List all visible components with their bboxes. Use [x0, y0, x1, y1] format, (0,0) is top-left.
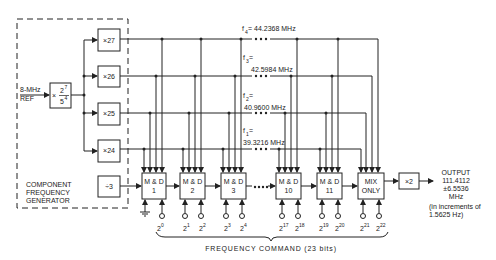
prescaler-denominator: 5	[60, 98, 64, 105]
output-line-2: 111.4112	[442, 177, 470, 184]
f4-eq: = 44.2368 MHz	[248, 25, 296, 32]
generator-label-2: FREQUENCY	[26, 189, 70, 197]
f1-value: 39.3216 MHz	[243, 139, 285, 146]
svg-text:1: 1	[187, 222, 190, 228]
output-line-4: MHz	[449, 193, 464, 200]
stage-mix-line1: MIX	[365, 178, 378, 185]
multiplier-label-25: ×25	[103, 110, 115, 117]
f3-name: f	[243, 54, 245, 61]
generator-label-1: COMPONENT	[26, 181, 72, 188]
stage-md2-line2: 2	[191, 187, 195, 194]
ref-label-1: 8-MHz	[20, 86, 41, 93]
stage-md1-line1: M & D	[144, 178, 163, 185]
bit-labels: 20 21 22 23 24 217 218 219 220 221 222	[157, 222, 386, 232]
doubler-label: ×2	[405, 178, 413, 185]
svg-text:17: 17	[283, 222, 289, 228]
stage-md3-line2: 3	[232, 187, 236, 194]
stage-box-md11	[317, 173, 342, 199]
stage-md3-line1: M & D	[224, 178, 243, 185]
ellipsis-dots	[254, 38, 268, 188]
command-pins	[140, 200, 382, 219]
multiplier-label-27: ×27	[103, 37, 115, 44]
stage-box-mix	[358, 173, 384, 199]
svg-text:22: 22	[380, 222, 386, 228]
output-note-2: 1.5625 Hz)	[429, 211, 463, 219]
stage-md2-line1: M & D	[183, 178, 202, 185]
block-diagram: 8-MHz REF × 2 7 5 4 ×27 ×26 ×25 ×24 ÷3 C…	[0, 0, 496, 260]
multiplier-label-26: ×26	[103, 73, 115, 80]
prescaler-prefix: ×	[52, 92, 56, 99]
stage-md11-line2: 11	[326, 187, 333, 194]
command-brace	[156, 232, 388, 241]
ref-label-2: REF	[20, 95, 34, 102]
prescaler-numerator: 2	[60, 87, 64, 94]
svg-text:4: 4	[244, 222, 247, 228]
f2-eq: =	[249, 92, 253, 99]
stage-box-md2	[180, 173, 205, 199]
svg-text:21: 21	[364, 222, 370, 228]
svg-text:19: 19	[323, 222, 329, 228]
junction-dots	[83, 38, 340, 151]
stage-md11-line1: M & D	[320, 178, 339, 185]
f3-value: 42.5984 MHz	[251, 66, 293, 73]
svg-text:2: 2	[203, 222, 206, 228]
stage-mix-line2: ONLY	[362, 187, 381, 194]
multiplier-label-24: ×24	[103, 147, 115, 154]
stage-md10-line1: M & D	[279, 178, 298, 185]
f2-value: 40.9600 MHz	[244, 104, 286, 111]
generator-label-3: GENERATOR	[26, 197, 70, 204]
divider-label: ÷3	[105, 183, 113, 190]
stage-box-md1	[142, 173, 166, 199]
stage-md1-line2: 1	[152, 187, 156, 194]
f4-name: f	[242, 25, 244, 32]
f2-name: f	[243, 92, 245, 99]
svg-text:20: 20	[339, 222, 345, 228]
svg-text:18: 18	[299, 222, 305, 228]
frequency-command-label: FREQUENCY COMMAND (23 bits)	[205, 245, 337, 253]
svg-text:0: 0	[161, 222, 164, 228]
f1-eq: =	[249, 127, 253, 134]
output-note-1: (in increments of	[429, 203, 481, 211]
stage-box-md10	[276, 173, 301, 199]
prescaler-den-exp: 4	[65, 95, 68, 101]
f1-name: f	[243, 127, 245, 134]
stage-md10-line2: 10	[285, 187, 293, 194]
output-line-3: ±6.5536	[443, 185, 468, 192]
svg-text:3: 3	[228, 222, 231, 228]
output-line-1: OUTPUT	[442, 169, 472, 176]
prescaler-num-exp: 7	[65, 84, 68, 90]
stage-box-md3	[221, 173, 246, 199]
f3-eq: =	[249, 54, 253, 61]
